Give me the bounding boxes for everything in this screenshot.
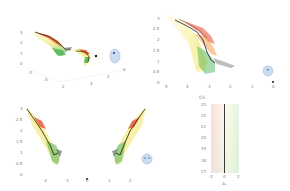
x-tick: 1 [108,179,111,183]
y-tick: 0 [157,81,160,85]
x-tick: 5 [165,85,168,89]
y-tick: 3 [20,107,23,111]
panel-front-view: 3 2.5 2 1.5 1 0.5 0 -2 -1 0 1 2 [0,95,160,191]
y-tick: 18 [201,159,206,163]
head-glyph-icon [142,154,152,164]
x-tick: 0 [45,78,48,82]
colorbar-title: CS [199,96,205,101]
y-tick: 2.5 [153,27,159,31]
colorbar-gradient [211,104,239,173]
y-tick: 17 [201,170,206,174]
panel-3d-view: 3 2 1 0 -2 0 2 4 2 0 [0,0,145,95]
z-tick: 2 [20,41,23,45]
plot-front-ribbons [0,95,160,191]
head-glyph-icon [263,66,273,76]
y-tick: 0.5 [153,70,159,74]
y-tick: 20 [201,136,206,140]
x-tick: 2 [129,179,132,183]
y-tick: 23 [201,103,206,107]
x-tick: 0 [86,179,89,183]
y-tick: 21 [201,125,206,129]
x-tick: -2 [43,179,47,183]
x-tick: 0 [223,175,226,179]
x-tick: -2 [28,71,32,75]
x-tick: 0 [272,85,275,89]
panel-side-view: 3 2.5 2 1.5 1 0.5 0 5 4 3 2 1 0 [145,0,290,95]
panel-colorbar: CS 23 22 21 20 19 18 17 -2 0 2 aₛ [195,95,255,191]
y-tick: 2.5 [16,118,22,122]
x-tick: 2 [62,85,65,89]
x-tick: 4 [186,85,189,89]
y-tick: 1.5 [153,49,159,53]
y-tick: 2 [20,129,23,133]
y-tick: 22 [201,114,206,118]
zero-line [224,104,225,173]
head-glyph-icon [110,49,120,63]
y-tick: 0.5 [16,162,22,166]
z-tick: 3 [20,31,23,35]
x-tick: 4 [90,82,93,86]
y-tick: 1.5 [16,140,22,144]
y-tick: 19 [201,147,206,151]
y-tick: 0 [20,173,23,177]
y-tick: 1 [157,60,160,64]
y-tick: 3 [157,17,160,21]
origin-marker-icon [272,81,274,83]
x-tick: 2 [237,175,240,179]
x-tick: -2 [209,175,213,179]
y-tick: 1 [20,151,23,155]
z-tick: 0 [20,62,23,66]
y-tick: 2 [157,38,160,42]
plot-3d-ribbons [0,0,145,95]
y-tick: 0 [123,68,126,72]
x-tick: 2 [229,85,232,89]
y-tick: 2 [107,75,110,79]
x-tick: 1 [251,85,254,89]
x-tick: 3 [208,85,211,89]
plot-side-ribbon [145,0,290,95]
z-tick: 1 [20,52,23,56]
x-tick: -1 [65,179,69,183]
origin-marker-icon [95,55,97,57]
colorbar-xlabel: aₛ [222,182,226,187]
